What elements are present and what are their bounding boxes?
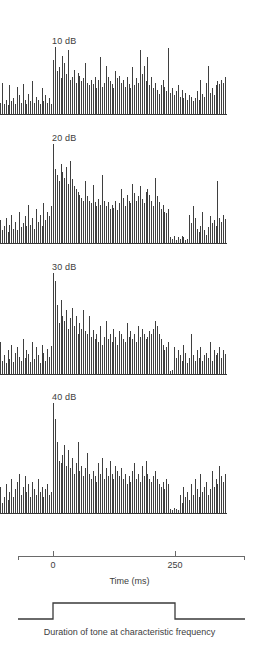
histogram-bar (176, 240, 177, 243)
histogram-bar (95, 339, 96, 374)
histogram-bar (11, 215, 12, 243)
histogram-bar (170, 237, 171, 243)
histogram-bar (113, 208, 114, 243)
histogram-bar (200, 80, 201, 114)
histogram-bar (13, 497, 14, 513)
histogram-bar (28, 205, 29, 243)
histogram-bar (113, 88, 114, 114)
histogram-bar (26, 350, 27, 374)
histogram-bar (132, 67, 133, 114)
histogram-bar (78, 192, 79, 243)
histogram-bar (25, 476, 26, 513)
histogram-bar (36, 347, 37, 374)
histogram-bar (191, 334, 192, 374)
histogram-bar (9, 492, 10, 513)
histogram-bar (147, 189, 148, 243)
histogram-bar (121, 468, 122, 513)
panel-label-30db: 30 dB (52, 262, 77, 272)
histogram-bar (15, 489, 16, 513)
histogram-bar (202, 212, 203, 243)
histogram-bar (225, 77, 226, 114)
histogram-bar (34, 359, 35, 374)
histogram-bar (161, 209, 162, 243)
histogram-bar (130, 203, 131, 243)
histogram-bar (125, 342, 126, 374)
histogram-bar (55, 169, 56, 243)
histogram-bar (104, 201, 105, 243)
histogram-bar (0, 220, 1, 243)
histogram-bar (89, 474, 90, 513)
histogram-bar (25, 358, 26, 374)
histogram-bar (117, 345, 118, 374)
histogram-bar (42, 226, 43, 243)
histogram-bar (210, 489, 211, 513)
histogram-bar (100, 474, 101, 513)
histogram-bar (55, 47, 56, 114)
histogram-bar (166, 213, 167, 243)
histogram-bar (221, 476, 222, 513)
histogram-bar (28, 484, 29, 513)
histogram-bar (161, 339, 162, 374)
histogram-bar (176, 358, 177, 374)
histogram-bar (121, 189, 122, 243)
histogram-bar (206, 353, 207, 374)
histogram-bar (115, 201, 116, 243)
histogram-bar (36, 495, 37, 513)
histogram-bar (178, 85, 179, 114)
histogram-bar (89, 201, 90, 243)
histogram-bar (136, 201, 137, 243)
histogram-bar (197, 489, 198, 513)
histogram-bar (140, 482, 141, 513)
histogram-bar (13, 229, 14, 243)
histogram-bar (117, 471, 118, 513)
histogram-bar (17, 347, 18, 374)
histogram-bar (100, 57, 101, 114)
histogram-bar (79, 195, 80, 243)
histogram-bar (59, 323, 60, 374)
histogram-bar (151, 77, 152, 114)
histogram-bar (155, 471, 156, 513)
histogram-bar (132, 339, 133, 374)
histogram-bar (214, 350, 215, 374)
histogram-bar (79, 471, 80, 513)
histogram-bar (189, 500, 190, 513)
histogram-bar (223, 215, 224, 243)
histogram-bar (38, 355, 39, 374)
histogram-bar (204, 230, 205, 243)
histogram-bar (127, 484, 128, 513)
histogram-bar (206, 83, 207, 114)
histogram-bar (2, 230, 3, 243)
histogram-bar (178, 510, 179, 513)
histogram-bar (217, 353, 218, 374)
histogram-bar (187, 239, 188, 243)
histogram-bar (115, 337, 116, 374)
histogram-bar (163, 205, 164, 243)
histogram-bar (134, 193, 135, 243)
histogram-bar (214, 95, 215, 114)
histogram-bar (214, 487, 215, 513)
histogram-bar (157, 196, 158, 243)
histogram-bar (151, 201, 152, 243)
histogram-bar (83, 201, 84, 243)
histogram-bar (202, 94, 203, 114)
histogram-bar (100, 326, 101, 374)
histogram-bar (117, 78, 118, 114)
histogram-bar (119, 331, 120, 374)
histogram-bar (91, 479, 92, 513)
histogram-bar (208, 495, 209, 513)
histogram-bar (149, 195, 150, 243)
histogram-bar (204, 487, 205, 513)
histogram-bar (123, 198, 124, 243)
histogram-bar (193, 101, 194, 114)
histogram-bar (17, 87, 18, 114)
histogram-bar (55, 419, 56, 513)
histogram-bar (66, 167, 67, 243)
histogram-bar (110, 81, 111, 114)
histogram-bar (110, 461, 111, 513)
histogram-bar (166, 479, 167, 513)
histogram-bar (153, 88, 154, 114)
histogram-bar (130, 331, 131, 374)
histogram-bar (43, 497, 44, 513)
histogram-bar (176, 91, 177, 114)
histogram-bar (38, 100, 39, 114)
